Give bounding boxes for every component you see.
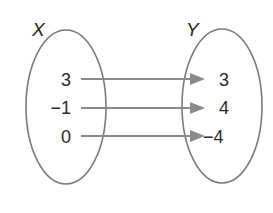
range-set-label: Y <box>186 19 200 40</box>
mapping-arrows <box>81 73 205 142</box>
domain-value: 3 <box>61 70 71 90</box>
range-set: Y 3 4 −4 <box>182 19 262 183</box>
domain-set: X 3 −1 0 <box>26 19 106 184</box>
mapping-diagram: X 3 −1 0 Y 3 4 −4 <box>0 0 273 213</box>
range-value: 4 <box>219 98 229 118</box>
arrow-icon <box>81 73 205 85</box>
arrow-icon <box>81 102 205 114</box>
domain-value: 0 <box>61 127 71 147</box>
domain-value: −1 <box>50 98 71 118</box>
range-value: 3 <box>219 70 229 90</box>
range-value: −4 <box>203 127 224 147</box>
domain-set-label: X <box>31 19 46 40</box>
